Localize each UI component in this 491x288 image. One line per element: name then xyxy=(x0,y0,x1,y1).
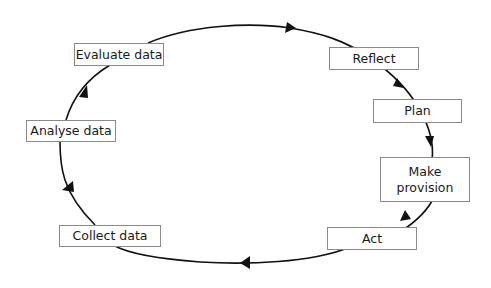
arrow-head-icon xyxy=(393,78,404,88)
node-analyse-data: Analyse data xyxy=(26,120,116,142)
node-act: Act xyxy=(327,227,417,250)
node-make-provision: Make provision xyxy=(380,157,470,202)
arrow-head-icon xyxy=(62,181,74,192)
arrow-head-icon xyxy=(240,256,250,269)
node-plan: Plan xyxy=(373,99,462,123)
arrow-head-icon xyxy=(285,22,296,33)
node-reflect: Reflect xyxy=(329,47,419,70)
arrow-head-icon xyxy=(400,210,411,221)
node-evaluate-data: Evaluate data xyxy=(74,43,164,66)
node-collect-data: Collect data xyxy=(59,225,161,247)
